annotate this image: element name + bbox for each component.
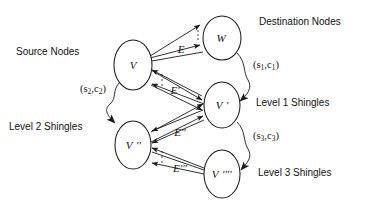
edge-label-E-prime: E′	[169, 84, 180, 96]
diagram-canvas: V W V ′ V ′′ V ′′′′ E E′ E′′ E′′′	[0, 0, 376, 212]
pair-label-s1c1: (s1,c1)	[253, 59, 279, 72]
connector-s3c3	[237, 122, 250, 170]
pair-s2c2-suffix: )	[102, 83, 106, 95]
node-W-label: W	[216, 32, 226, 44]
connector-s2c2	[107, 83, 119, 123]
edge-label-E-tripleprime: E′′′	[172, 162, 188, 174]
pair-s1c1-prefix: (s	[253, 59, 261, 71]
pair-s3c3-suffix: )	[275, 130, 279, 142]
pair-label-s3c3: (s3,c3)	[253, 130, 279, 143]
connector-s1c1	[237, 53, 250, 101]
label-source-nodes: Source Nodes	[16, 46, 79, 57]
label-level-2-shingles: Level 2 Shingles	[9, 121, 82, 132]
pair-s3c3-prefix: (s	[253, 130, 261, 142]
edge-group-E	[150, 25, 203, 61]
node-V-quadprime: V ′′′′	[204, 150, 240, 198]
shingle-graph-diagram: V W V ′ V ′′ V ′′′′ E E′ E′′ E′′′	[0, 0, 376, 212]
pair-s2c2-prefix: (s	[80, 83, 88, 95]
svg-text:(s1,c1): (s1,c1)	[253, 59, 279, 72]
node-V-doubleprime-primes: ′′	[136, 139, 141, 151]
svg-text:(s3,c3): (s3,c3)	[253, 130, 279, 143]
svg-text:(s2,c2): (s2,c2)	[80, 83, 106, 96]
label-destination-nodes: Destination Nodes	[259, 16, 341, 27]
pair-label-s2c2: (s2,c2)	[80, 83, 106, 96]
label-level-3-shingles: Level 3 Shingles	[258, 167, 331, 178]
node-V-prime: V ′	[204, 82, 240, 128]
label-level-1-shingles: Level 1 Shingles	[256, 97, 329, 108]
node-V-quadprime-primes: ′′′′	[222, 168, 232, 180]
edge-label-E-doubleprime: E′′	[173, 126, 186, 138]
pair-s1c1-suffix: )	[275, 59, 279, 71]
node-V: V	[114, 40, 152, 90]
node-W: W	[203, 16, 241, 60]
edge-label-E: E	[177, 43, 185, 55]
node-V-doubleprime: V ′′	[115, 121, 151, 169]
